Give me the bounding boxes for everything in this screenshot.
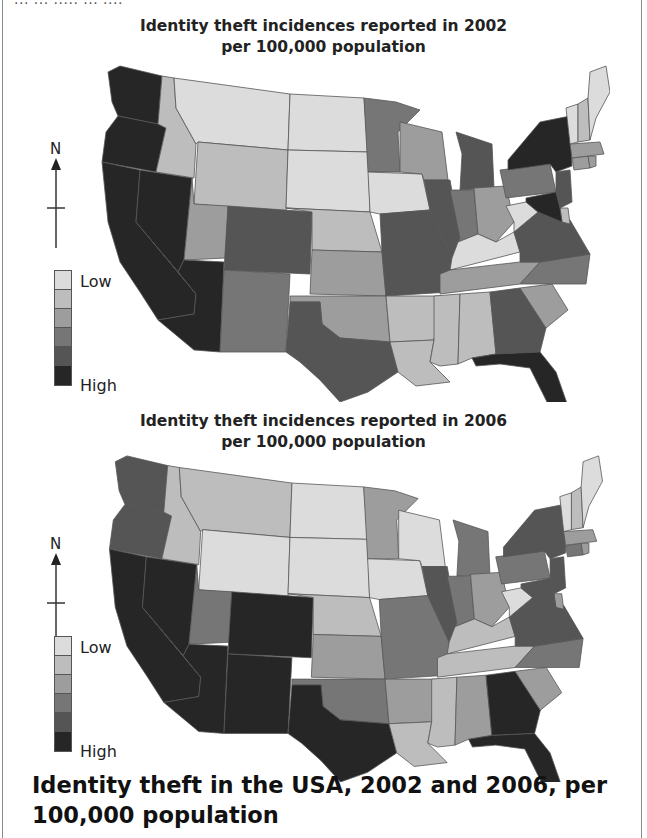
state-fl: [472, 352, 570, 402]
north-arrow-icon: [44, 156, 74, 256]
state-ks: [311, 634, 385, 679]
state-or: [109, 504, 171, 558]
map-2002-title-line1: Identity theft incidences reported in 20…: [0, 16, 647, 37]
legend-swatch-3: [55, 309, 71, 328]
figure-caption: Identity theft in the USA, 2002 and 2006…: [32, 770, 622, 830]
legend-swatch-2: [55, 290, 71, 309]
state-me: [581, 456, 602, 528]
state-ar: [385, 679, 437, 724]
state-wa: [115, 456, 167, 512]
legend-swatch-1: [55, 637, 71, 656]
map-2006-title-line1: Identity theft incidences reported in 20…: [0, 411, 647, 432]
state-wi: [400, 122, 448, 180]
us-choropleth-2006: [100, 452, 610, 782]
legend-swatch-5: [55, 713, 71, 732]
state-wi: [399, 510, 446, 566]
state-wa: [108, 66, 162, 124]
state-ks: [310, 250, 386, 296]
map-2006-title: Identity theft incidences reported in 20…: [0, 411, 647, 453]
state-al: [455, 675, 492, 745]
map-2002-title: Identity theft incidences reported in 20…: [0, 16, 647, 58]
state-nd: [288, 94, 368, 152]
state-co: [228, 592, 313, 658]
state-ct: [566, 543, 583, 557]
state-ia: [368, 172, 430, 214]
us-choropleth-2002: [100, 62, 610, 402]
state-wy: [199, 530, 290, 598]
legend-swatch-4: [55, 328, 71, 347]
legend-color-bar: [54, 636, 72, 752]
map-2002-title-line2: per 100,000 population: [0, 37, 647, 58]
state-ny: [508, 116, 572, 172]
state-ia: [368, 559, 428, 600]
map-2006-title-line2: per 100,000 population: [0, 432, 647, 453]
state-ar: [386, 296, 440, 342]
cropped-text-fragment: ... ... ..... ... ....: [14, 0, 123, 7]
state-mi: [453, 520, 490, 576]
legend-color-bar: [54, 270, 72, 386]
state-ct: [572, 156, 590, 170]
legend-swatch-6: [55, 366, 71, 385]
legend-swatch-1: [55, 271, 71, 290]
state-wy: [194, 142, 288, 212]
state-nd: [290, 483, 368, 539]
legend-swatch-3: [55, 675, 71, 694]
legend-swatch-5: [55, 347, 71, 366]
state-ma: [564, 530, 597, 546]
state-nm: [220, 270, 290, 352]
state-or: [102, 116, 166, 172]
legend-swatch-4: [55, 694, 71, 713]
state-ny: [504, 504, 566, 558]
state-co: [224, 206, 312, 274]
legend-swatch-6: [55, 732, 71, 751]
state-al: [458, 292, 496, 364]
state-mi: [456, 132, 494, 190]
map-2006: [100, 452, 610, 786]
state-ms: [428, 677, 457, 747]
state-me: [588, 66, 610, 140]
state-sd: [288, 537, 370, 597]
map-2002: [100, 62, 610, 406]
state-sd: [286, 150, 370, 212]
state-ms: [430, 294, 460, 366]
state-nm: [224, 654, 292, 734]
state-ma: [570, 142, 604, 158]
legend-swatch-2: [55, 656, 71, 675]
